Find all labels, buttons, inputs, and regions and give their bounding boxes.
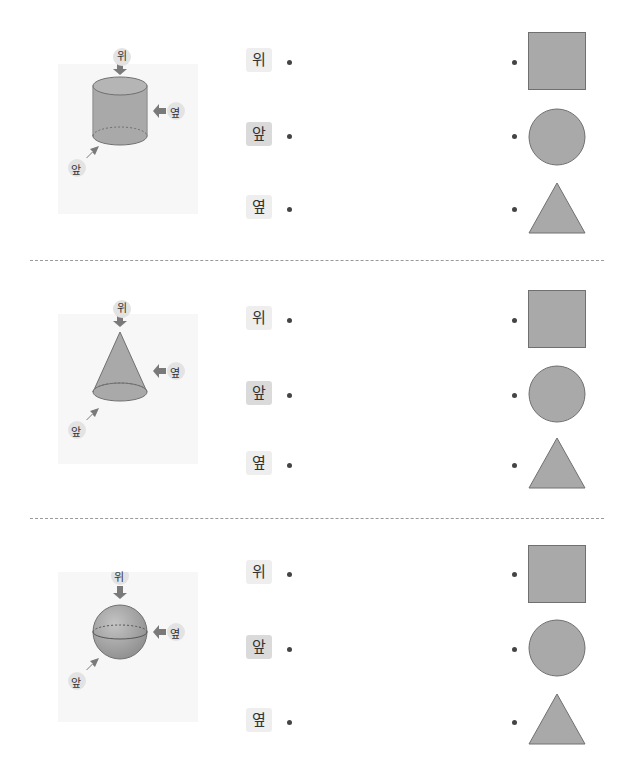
view-label-front: 앞 [246,381,272,405]
match-dot-right[interactable] [512,60,517,65]
match-dot-left[interactable] [287,647,292,652]
cylinder-illustration [58,64,198,214]
match-dot-left[interactable] [287,463,292,468]
view-label-side: 옆 [246,708,272,732]
match-dot-left[interactable] [287,720,292,725]
match-dot-left[interactable] [287,60,292,65]
figure-label-front: 앞 [71,674,81,690]
square-shape [528,545,586,603]
match-dot-right[interactable] [512,463,517,468]
figure-label-top: 위 [113,48,131,66]
circle-shape [528,365,586,423]
view-label-top: 위 [246,48,272,72]
circle-shape [528,619,586,677]
match-dot-right[interactable] [512,393,517,398]
cone-figure: 위 옆 앞 [58,314,198,464]
match-dot-left[interactable] [287,572,292,577]
figure-label-front: 앞 [71,161,81,177]
section-divider [30,260,604,261]
match-dot-left[interactable] [287,393,292,398]
match-dot-left[interactable] [287,318,292,323]
figure-label-front: 앞 [71,423,81,439]
cone-section: 위 옆 앞 위 앞 옆 [0,262,629,518]
match-dot-right[interactable] [512,318,517,323]
match-dot-left[interactable] [287,134,292,139]
sphere-section: 위 옆 앞 위 앞 옆 [0,520,629,781]
triangle-shape [528,182,586,234]
figure-label-side: 옆 [170,104,180,120]
sphere-illustration [58,572,198,722]
match-dot-right[interactable] [512,207,517,212]
view-label-side: 옆 [246,451,272,475]
figure-label-top: 위 [114,568,124,584]
triangle-shape [528,437,586,489]
view-label-side: 옆 [246,195,272,219]
match-dot-right[interactable] [512,647,517,652]
view-label-front: 앞 [246,122,272,146]
cylinder-figure: 위 옆 앞 [58,64,198,214]
figure-label-side: 옆 [170,625,180,641]
match-dot-right[interactable] [512,572,517,577]
cone-illustration [58,314,198,464]
figure-label-side: 옆 [170,364,180,380]
circle-shape [528,108,586,166]
view-label-top: 위 [246,560,272,584]
view-label-top: 위 [246,306,272,330]
match-dot-right[interactable] [512,134,517,139]
section-divider [30,518,604,519]
square-shape [528,290,586,348]
sphere-figure: 위 옆 앞 [58,572,198,722]
view-label-front: 앞 [246,635,272,659]
match-dot-left[interactable] [287,207,292,212]
figure-label-top: 위 [113,300,131,318]
square-shape [528,32,586,90]
match-dot-right[interactable] [512,720,517,725]
triangle-shape [528,693,586,745]
cylinder-section: 위 옆 앞 위 앞 옆 [0,0,629,260]
